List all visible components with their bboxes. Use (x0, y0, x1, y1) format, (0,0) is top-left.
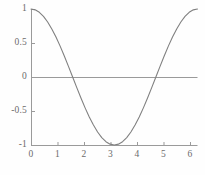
y-tick-label: 0.5 (15, 38, 27, 48)
plot-figure: 10.50-0.5-1 0123456 (0, 0, 205, 175)
x-tick-label: 1 (47, 150, 67, 160)
y-tick-label: 1 (22, 4, 27, 14)
y-tick-label: -0.5 (11, 106, 27, 116)
y-tick-label: 0 (22, 72, 27, 82)
x-tick-label: 2 (74, 150, 94, 160)
axes-group (31, 9, 198, 146)
x-tick-label: 5 (153, 150, 173, 160)
x-tick-label: 3 (100, 150, 120, 160)
x-tick-label: 0 (21, 150, 41, 160)
x-tick-label: 4 (127, 150, 147, 160)
y-tick-label: -1 (19, 140, 27, 150)
x-tick-label: 6 (180, 150, 200, 160)
